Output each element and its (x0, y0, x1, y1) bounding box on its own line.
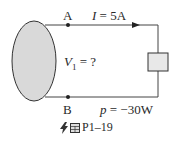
power-label: p = −30W (100, 103, 153, 116)
node-a-dot (66, 23, 70, 27)
current-arrow-icon (132, 22, 140, 28)
lightning-icon (60, 122, 68, 134)
caption-label: P1–19 (82, 120, 113, 135)
grid-icon (70, 123, 80, 133)
source-element (12, 21, 56, 101)
node-b-dot (66, 95, 70, 99)
node-b-label: B (63, 103, 72, 116)
current-label: I = 5A (92, 9, 126, 22)
figure-caption: P1–19 (60, 120, 113, 135)
node-a-label: A (63, 9, 72, 22)
voltage-label: V1 = ? (64, 55, 96, 72)
load-element (148, 53, 168, 71)
